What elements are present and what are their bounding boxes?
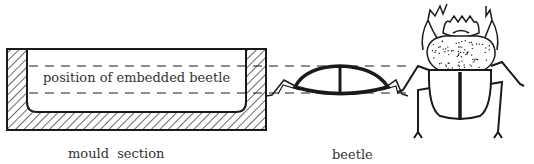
stipple-dot [458,42,459,43]
stipple-dot [479,67,480,68]
stipple-dot [435,50,436,51]
stipple-dot [452,50,453,51]
stipple-dot [458,54,459,55]
beetle-label: beetle [332,147,373,162]
stipple-dot [474,60,475,61]
stipple-dot [476,43,477,44]
stipple-dot [448,62,449,63]
stipple-dot [458,65,459,66]
stipple-dot [458,62,459,63]
stipple-dot [489,45,490,46]
stipple-dot [433,57,434,58]
beetle-top-view [398,4,524,138]
mould-section [7,49,266,130]
stipple-dot [468,51,469,52]
stipple-dot [445,48,446,49]
stipple-dot [458,51,459,52]
stipple-dot [469,42,470,43]
stipple-dot [465,40,466,41]
stipple-dot [469,64,470,65]
stipple-dot [443,48,444,49]
stipple-dot [467,53,468,54]
stipple-dot [479,43,480,44]
position-label: position of embedded beetle [43,70,230,85]
stipple-dot [446,66,447,67]
stipple-dot [476,59,477,60]
stipple-dot [485,47,486,48]
stipple-dot [458,46,459,47]
stipple-dot [447,50,448,51]
beetle-leg-mid-right [490,82,502,138]
stipple-dot [439,63,440,64]
stipple-dot [489,49,490,50]
stipple-dot [457,56,458,57]
stipple-dot [474,59,475,60]
stipple-dot [434,52,435,53]
mould-wall-hatched [7,49,266,130]
stipple-dot [458,53,459,54]
stipple-dot [461,41,462,42]
mould-diagram: position of embedded beetle mould sectio… [0,0,534,164]
stipple-dot [432,50,433,51]
stipple-dot [465,54,466,55]
stipple-dot [461,56,462,57]
stipple-dot [485,52,486,53]
stipple-dot [472,44,473,45]
stipple-dot [460,52,461,53]
stipple-dot [471,54,472,55]
stipple-dot [472,59,473,60]
beetle-head [443,16,479,37]
stipple-dot [461,60,462,61]
stipple-dot [441,40,442,41]
stipple-dot [452,67,453,68]
stipple-dot [444,51,445,52]
stipple-dot [464,49,465,50]
stipple-dot [486,60,487,61]
stipple-dot [447,46,448,47]
stipple-dot [473,61,474,62]
stipple-dot [482,44,483,45]
stipple-dot [438,47,439,48]
stipple-dot [439,53,440,54]
stipple-dot [461,46,462,47]
stipple-dot [456,43,457,44]
stipple-dot [459,66,460,67]
stipple-dot [440,46,441,47]
stipple-dot [463,52,464,53]
stipple-dot [472,48,473,49]
stipple-dot [451,50,452,51]
stipple-dot [464,67,465,68]
stipple-dot [460,46,461,47]
stipple-dot [448,54,449,55]
stipple-dot [471,65,472,66]
stipple-dot [471,42,472,43]
beetle-leg-mid-left [414,88,430,138]
beetle-side-view [266,66,408,96]
stipple-dot [445,64,446,65]
stipple-dot [433,44,434,45]
stipple-dot [464,64,465,65]
stipple-dot [441,63,442,64]
mould-label: mould section [68,146,165,161]
